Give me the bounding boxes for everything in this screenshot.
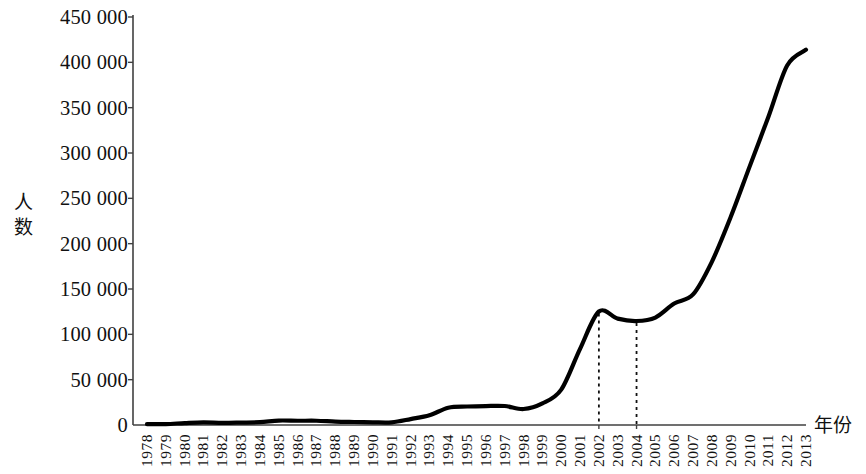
line-chart: 人 数 450 000400 000350 000300 000250 0002… [0,0,866,474]
annotation-lines [599,314,637,429]
axes [128,15,806,425]
plot-area [0,0,866,474]
data-series [147,50,806,424]
series-line-renshu [147,50,806,424]
